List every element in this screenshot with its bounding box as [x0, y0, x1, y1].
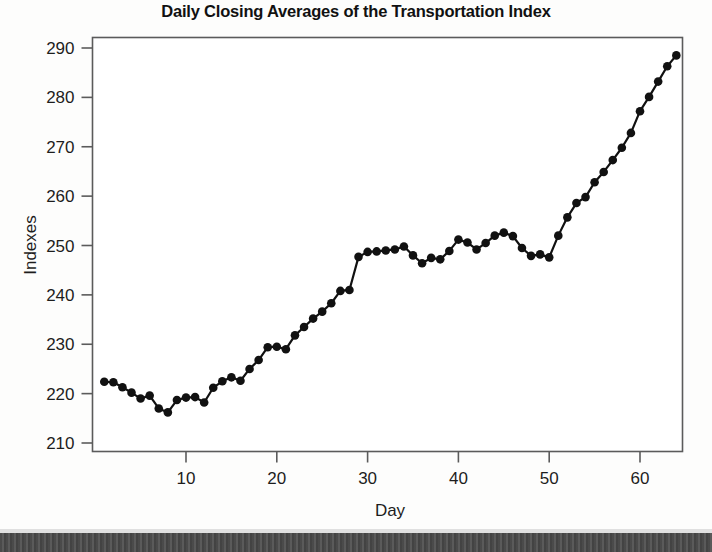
- data-point: [109, 378, 118, 387]
- data-point: [663, 62, 672, 71]
- data-point: [100, 377, 109, 386]
- data-point: [291, 331, 300, 340]
- data-point: [618, 143, 627, 152]
- y-axis-ticks: [82, 48, 93, 443]
- data-point: [654, 77, 663, 86]
- scan-artifact-band: [0, 533, 712, 552]
- data-point: [536, 250, 545, 259]
- data-point: [336, 287, 345, 296]
- data-point: [282, 345, 291, 354]
- data-point: [445, 247, 454, 256]
- data-point: [554, 231, 563, 240]
- data-point: [372, 247, 381, 256]
- data-point: [318, 307, 327, 316]
- y-axis-tick-label: 210: [46, 434, 74, 453]
- data-point: [672, 51, 681, 60]
- x-axis-title: Day: [375, 501, 406, 520]
- x-axis-tick-label: 60: [631, 469, 650, 488]
- plot-frame: [93, 38, 683, 452]
- data-point: [572, 199, 581, 208]
- data-point: [154, 404, 163, 413]
- data-point: [363, 248, 372, 257]
- data-point: [164, 408, 173, 417]
- data-point: [418, 259, 427, 268]
- data-point: [409, 251, 418, 260]
- y-axis-tick-label: 270: [46, 138, 74, 157]
- data-point: [381, 246, 390, 255]
- data-point: [472, 245, 481, 254]
- chart-page: Daily Closing Averages of the Transporta…: [0, 0, 712, 552]
- data-point: [327, 299, 336, 308]
- data-point: [273, 342, 282, 351]
- y-axis-title: Indexes: [21, 215, 40, 275]
- y-axis-tick-label: 260: [46, 187, 74, 206]
- data-point: [490, 231, 499, 240]
- y-axis-tick-label: 250: [46, 237, 74, 256]
- y-axis-tick-label: 220: [46, 385, 74, 404]
- data-point: [218, 377, 227, 386]
- data-point: [145, 391, 154, 400]
- data-point: [254, 356, 263, 365]
- x-axis-tick-label: 40: [449, 469, 468, 488]
- data-point: [454, 235, 463, 244]
- x-axis-tick-label: 20: [267, 469, 286, 488]
- data-point: [400, 242, 409, 251]
- y-axis-tick-label: 230: [46, 335, 74, 354]
- data-point: [563, 213, 572, 222]
- data-point: [500, 228, 509, 237]
- data-point: [300, 323, 309, 332]
- data-point: [608, 156, 617, 165]
- data-point: [463, 238, 472, 247]
- x-axis-tick-label: 50: [540, 469, 559, 488]
- x-axis-tick-label: 30: [358, 469, 377, 488]
- data-point: [545, 253, 554, 262]
- data-point: [581, 193, 590, 202]
- data-point: [173, 396, 182, 405]
- x-axis-ticks: [186, 452, 640, 463]
- data-point: [427, 254, 436, 263]
- data-point: [200, 398, 209, 407]
- data-point: [209, 383, 218, 392]
- data-point: [345, 286, 354, 295]
- data-point: [118, 383, 127, 392]
- data-point: [227, 373, 236, 382]
- data-point: [263, 343, 272, 352]
- y-axis-tick-label: 240: [46, 286, 74, 305]
- data-point: [127, 388, 136, 397]
- data-point: [527, 252, 536, 261]
- data-point: [636, 107, 645, 116]
- y-axis-tick-labels: 210220230240250260270280290: [46, 39, 74, 453]
- chart-plot-area: 210220230240250260270280290 102030405060…: [0, 0, 712, 552]
- y-axis-tick-label: 290: [46, 39, 74, 58]
- y-axis-tick-label: 280: [46, 88, 74, 107]
- data-point: [354, 253, 363, 262]
- data-point: [645, 93, 654, 102]
- data-point: [136, 394, 145, 403]
- x-axis-tick-label: 10: [177, 469, 196, 488]
- data-point: [481, 239, 490, 248]
- data-point: [509, 232, 518, 241]
- data-point: [245, 365, 254, 374]
- x-axis-tick-labels: 102030405060: [177, 469, 650, 488]
- data-point: [182, 393, 191, 402]
- data-point: [599, 168, 608, 177]
- data-point: [236, 376, 245, 385]
- data-point: [309, 314, 318, 323]
- data-point: [191, 393, 200, 402]
- data-point: [436, 255, 445, 264]
- data-point: [627, 129, 636, 138]
- data-point: [518, 244, 527, 253]
- data-point: [391, 245, 400, 254]
- data-point: [590, 178, 599, 187]
